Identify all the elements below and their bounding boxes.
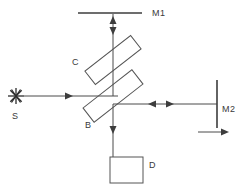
detector-d [110,157,143,183]
beam-beamsplitter-to-mirror-m1 [110,14,117,96]
label-compensator-c: C [72,57,79,67]
arrow-head-down [110,126,117,134]
beam-source-to-beamsplitter [24,93,118,100]
label-beamsplitter-b: B [85,120,92,130]
beam-beamsplitter-to-mirror-m2 [113,101,217,108]
optics-schematic-canvas: M1 M2 C B S D [0,0,245,191]
source-star [8,88,24,104]
arrow-head-left [148,101,156,108]
arrow-head-down [110,27,117,35]
mirror-m2-translation-arrow [198,129,229,136]
interferometer-diagram: M1 M2 C B S D [0,0,245,191]
label-mirror-m1: M1 [152,8,166,18]
label-mirror-m2: M2 [222,104,236,114]
arrow-head-right [65,93,73,100]
label-source-s: S [12,111,19,121]
beam-beamsplitter-to-detector [110,104,117,157]
arrow-head-right [221,129,229,136]
arrow-head-right [166,101,174,108]
arrow-head-up [110,16,117,24]
label-detector-d: D [149,160,156,170]
